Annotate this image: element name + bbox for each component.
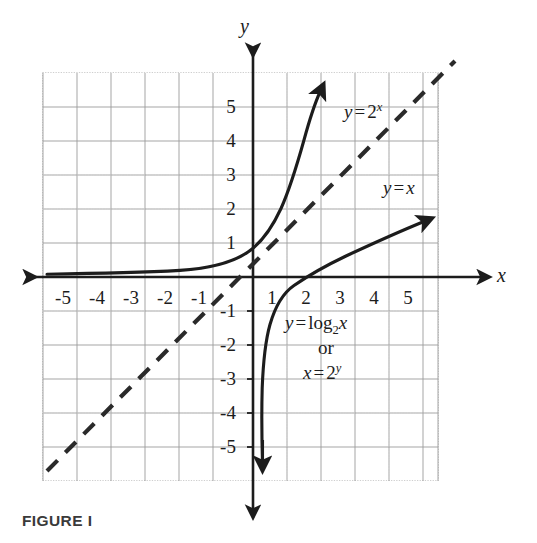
logarithm-equation-label: y=log2x	[285, 313, 347, 333]
logarithmic-curve	[262, 222, 424, 463]
identity-operator: =	[391, 177, 406, 198]
y-axis-label: y	[240, 15, 249, 38]
y-tick-label-1: 1	[218, 232, 244, 254]
exponential-operator: =	[352, 101, 367, 122]
identity-equation-label: y=x	[383, 178, 415, 198]
figure-container: -5 -4 -3 -2 -1 1 2 3 4 5 5 4 3 2 1 -1 -2…	[0, 0, 537, 543]
y-tick-label--3: -3	[212, 368, 244, 390]
x-tick-label-1: 1	[262, 287, 282, 309]
x-axis-label: x	[497, 264, 506, 287]
y-tick-label-2: 2	[218, 198, 244, 220]
logarithm-operator: =	[293, 312, 308, 333]
y-tick-label--1: -1	[212, 300, 244, 322]
graph-canvas	[0, 0, 537, 543]
x-tick-label-4: 4	[364, 287, 384, 309]
x-tick-label--5: -5	[46, 287, 80, 309]
x-tick-label--1: -1	[182, 287, 216, 309]
exponential-exponent: x	[377, 100, 383, 114]
y-tick-label--4: -4	[212, 402, 244, 424]
y-tick-label-5: 5	[218, 96, 244, 118]
exponential-equation-label: y=2x	[344, 102, 382, 122]
y-tick-label-4: 4	[218, 130, 244, 152]
axes	[28, 48, 482, 510]
or-connective-label: or	[318, 338, 334, 358]
y-tick-label--5: -5	[212, 436, 244, 458]
x-tick-label-5: 5	[398, 287, 418, 309]
logarithm-function: log	[308, 312, 332, 333]
identity-line	[47, 61, 455, 471]
y-tick-label-3: 3	[218, 164, 244, 186]
logarithm-argument: x	[339, 312, 347, 333]
figure-caption: FIGURE I	[22, 512, 92, 530]
y-tick-label--2: -2	[212, 334, 244, 356]
exponential-curve	[47, 92, 320, 274]
inverse-exponent: y	[336, 361, 342, 375]
identity-rhs: x	[406, 177, 414, 198]
x-tick-label--3: -3	[114, 287, 148, 309]
inverse-equation-label: x=2y	[303, 363, 341, 383]
exponential-base: 2	[367, 101, 377, 122]
x-tick-label-3: 3	[330, 287, 350, 309]
inverse-operator: =	[311, 362, 326, 383]
x-tick-label--4: -4	[80, 287, 114, 309]
x-tick-label--2: -2	[148, 287, 182, 309]
inverse-base: 2	[326, 362, 336, 383]
x-tick-label-2: 2	[296, 287, 316, 309]
